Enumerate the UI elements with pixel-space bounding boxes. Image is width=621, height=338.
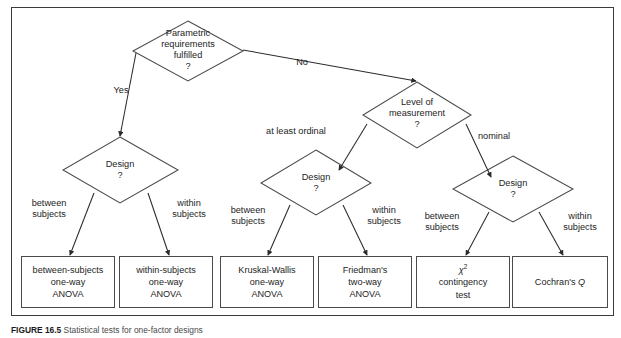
edge-label-between-2: between subjects — [219, 205, 277, 227]
edge-label-within-1: within subjects — [160, 198, 218, 220]
edge-label-yes: Yes — [101, 85, 141, 96]
edge-label-within-3: within subjects — [551, 211, 609, 233]
terminal-box-friedman: Friedman's two-way ANOVA — [318, 256, 412, 308]
edge-label-between-3: between subjects — [413, 211, 471, 233]
figure-caption: FIGURE 16.5 Statistical tests for one-fa… — [11, 325, 611, 338]
cochran-q-label: Cochran's Q — [535, 276, 585, 288]
edge-no — [243, 50, 416, 81]
edge-label-nominal: nominal — [466, 131, 522, 142]
terminal-box-between-subjects-anova: between-subjects one-way ANOVA — [21, 256, 115, 308]
figure-caption-label: FIGURE 16.5 — [11, 325, 61, 335]
chi-square-symbol: χ2 — [439, 263, 488, 276]
diamond-parametric — [133, 21, 243, 81]
terminal-box-kruskal-wallis: Kruskal-Wallis one-way ANOVA — [220, 256, 314, 308]
edge-label-within-2: within subjects — [355, 205, 413, 227]
figure-caption-text: Statistical tests for one-factor designs — [64, 325, 203, 335]
edge-at-least-ordinal — [339, 124, 367, 170]
diamond-design-parametric — [63, 137, 178, 203]
terminal-box-within-subjects-anova: within-subjects one-way ANOVA — [119, 256, 213, 308]
edge-label-between-1: between subjects — [20, 198, 78, 220]
terminal-box-cochran-q: Cochran's Q — [512, 256, 608, 308]
edge-label-no: No — [287, 57, 317, 68]
edge-label-at-least-ordinal: at least ordinal — [249, 126, 343, 137]
diamond-level-of-measurement — [363, 82, 471, 148]
figure-page: Parametric requirements fulfilled ? Leve… — [0, 0, 621, 338]
terminal-box-chi-square-contingency: χ2 contingency test — [416, 256, 510, 308]
